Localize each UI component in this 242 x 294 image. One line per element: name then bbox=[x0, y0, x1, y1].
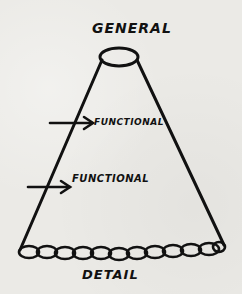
cone-left-edge bbox=[20, 60, 102, 250]
bottom-chain bbox=[19, 242, 225, 260]
label-detail: DETAIL bbox=[82, 267, 139, 282]
top-ellipse bbox=[100, 48, 138, 66]
cone-diagram bbox=[0, 0, 242, 294]
cone-right-edge bbox=[137, 60, 224, 245]
label-general: GENERAL bbox=[92, 20, 172, 36]
label-functional-lower: FUNCTIONAL bbox=[72, 173, 149, 184]
label-functional-upper: FUNCTIONAL bbox=[94, 117, 164, 127]
